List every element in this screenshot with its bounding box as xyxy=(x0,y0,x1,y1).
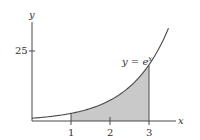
y-axis-label: y xyxy=(28,9,35,20)
curve-label: y = ex xyxy=(121,55,152,67)
shaded-area xyxy=(71,65,149,121)
curve-label-exponent: x xyxy=(148,55,152,63)
x-tick-label-2: 2 xyxy=(107,127,113,138)
curve-label-base: y = e xyxy=(121,56,148,67)
x-tick-label-3: 3 xyxy=(146,127,152,138)
y-tick-label-25: 25 xyxy=(15,45,28,56)
x-tick-label-1: 1 xyxy=(68,127,74,138)
exponential-area-chart: y x 25 1 2 3 y = ex xyxy=(0,0,200,140)
x-axis-label: x xyxy=(178,115,184,126)
